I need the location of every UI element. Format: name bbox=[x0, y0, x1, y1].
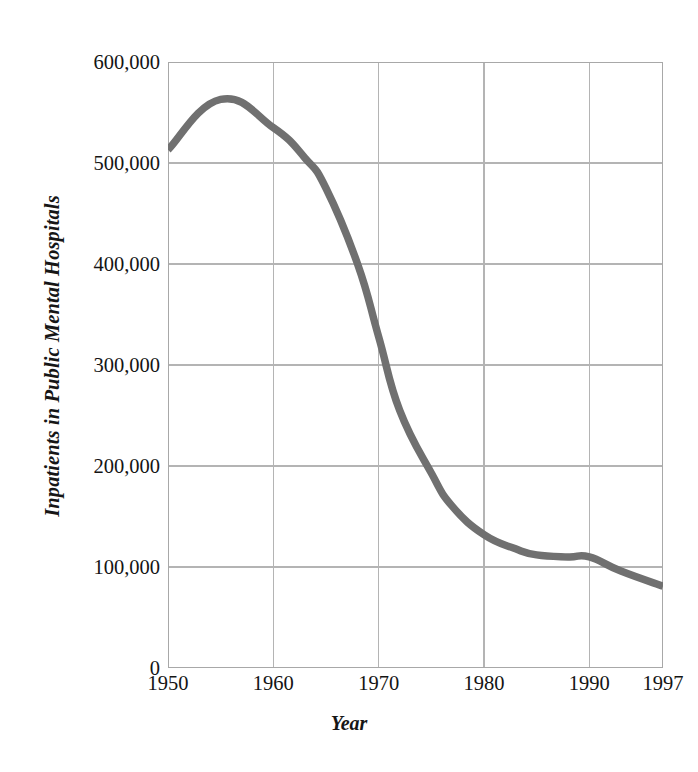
x-axis-tick-label: 1950 bbox=[148, 673, 189, 694]
chart-plot-svg bbox=[168, 62, 663, 668]
y-axis-tick-labels: 600,000500,000400,000300,000200,000100,0… bbox=[46, 0, 160, 772]
x-axis-tick-label: 1970 bbox=[358, 673, 399, 694]
y-axis-tick-label: 400,000 bbox=[48, 254, 160, 275]
x-axis-tick-label: 1997 bbox=[643, 673, 684, 694]
chart-figure: Inpatients in Public Mental Hospitals 60… bbox=[0, 0, 698, 772]
y-axis-tick-label: 200,000 bbox=[48, 456, 160, 477]
x-axis-tick-label: 1990 bbox=[569, 673, 610, 694]
x-axis-tick-label: 1980 bbox=[463, 673, 504, 694]
plot-area bbox=[168, 62, 663, 668]
x-axis-tick-labels: 195019601970198019901997 bbox=[0, 673, 698, 707]
x-axis-title: Year bbox=[0, 712, 698, 735]
y-axis-tick-label: 100,000 bbox=[48, 557, 160, 578]
y-axis-tick-label: 600,000 bbox=[48, 52, 160, 73]
x-axis-tick-label: 1960 bbox=[253, 673, 294, 694]
y-axis-tick-label: 300,000 bbox=[48, 355, 160, 376]
y-axis-tick-label: 500,000 bbox=[48, 153, 160, 174]
